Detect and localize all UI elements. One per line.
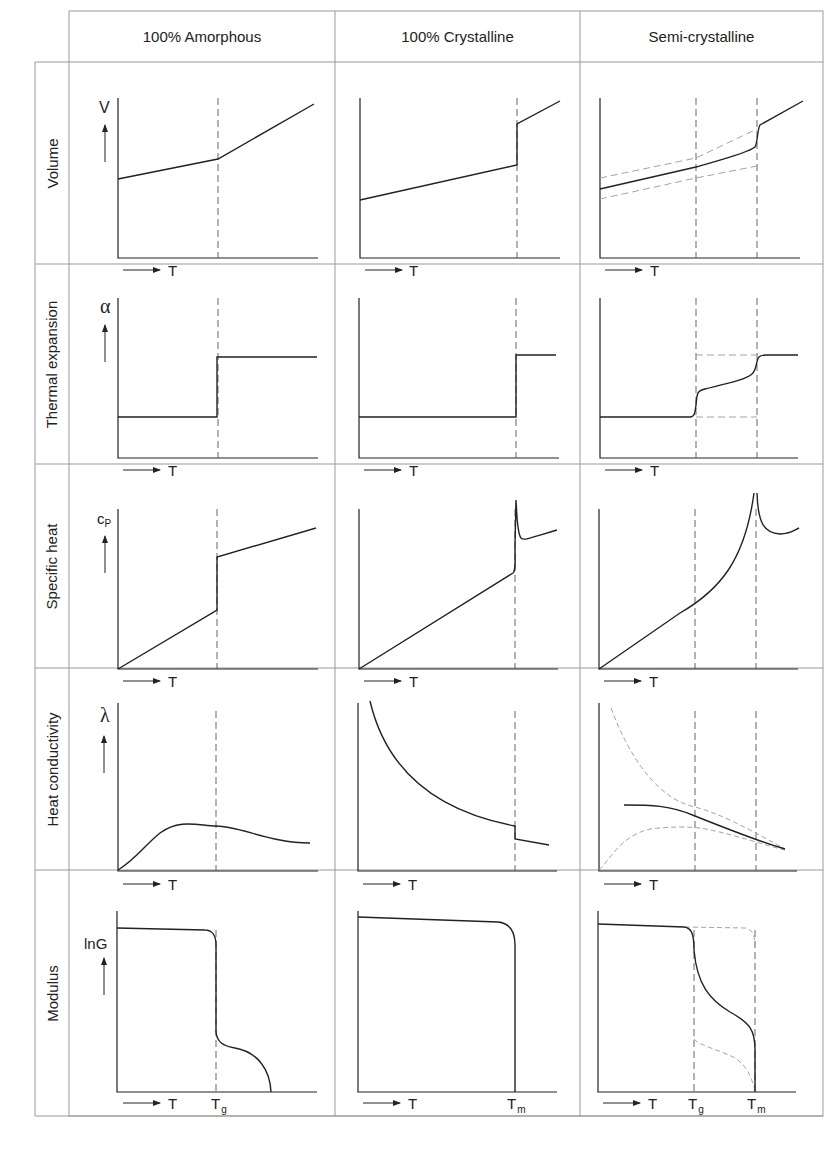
- plot-volume-crystalline: [360, 98, 560, 270]
- x-label-t: T: [650, 462, 659, 479]
- plot-volume-amorphous: [105, 98, 318, 270]
- x-label-t: T: [409, 462, 418, 479]
- x-label-t: T: [168, 262, 177, 279]
- plot-heat-conductivity-crystalline: [358, 701, 557, 884]
- x-label-t: T: [408, 1095, 417, 1112]
- plot-heat-conductivity-semicrystalline: [599, 703, 797, 884]
- x-label-t: T: [168, 1095, 177, 1112]
- tg-label-semicrystalline: Tg: [688, 1095, 704, 1112]
- x-label-t: T: [648, 1095, 657, 1112]
- plot-modulus-crystalline: [358, 911, 557, 1103]
- plot-heat-conductivity-amorphous: [104, 703, 318, 884]
- x-label-t: T: [409, 673, 418, 690]
- plot-thermal-expansion-amorphous: [105, 298, 318, 470]
- y-label-heat-conductivity: λ: [100, 704, 110, 727]
- x-label-t: T: [649, 876, 658, 893]
- x-label-t: T: [409, 262, 418, 279]
- plot-specific-heat-semicrystalline: [599, 493, 799, 681]
- x-label-t: T: [168, 462, 177, 479]
- tm-label-semicrystalline: Tm: [747, 1095, 766, 1112]
- plot-modulus-semicrystalline: [598, 911, 796, 1103]
- x-label-t: T: [650, 262, 659, 279]
- plot-thermal-expansion-semicrystalline: [600, 298, 798, 470]
- plot-specific-heat-crystalline: [359, 500, 558, 681]
- x-label-t: T: [168, 876, 177, 893]
- plot-volume-semicrystalline: [600, 98, 803, 270]
- y-label-thermal-expansion: α: [100, 295, 110, 318]
- x-label-t: T: [649, 673, 658, 690]
- plot-thermal-expansion-crystalline: [359, 298, 559, 470]
- x-label-t: T: [408, 876, 417, 893]
- plot-specific-heat-amorphous: [105, 509, 318, 681]
- property-grid-diagram: [0, 0, 838, 1150]
- y-label-modulus: lnG: [84, 935, 107, 952]
- table-grid: [35, 11, 823, 1116]
- tm-label-crystalline: Tm: [507, 1095, 526, 1112]
- tg-label-amorphous: Tg: [211, 1095, 227, 1112]
- y-label-specific-heat: cP: [97, 510, 111, 527]
- plot-modulus-amorphous: [104, 911, 317, 1103]
- x-label-t: T: [168, 673, 177, 690]
- y-label-volume: V: [99, 99, 110, 117]
